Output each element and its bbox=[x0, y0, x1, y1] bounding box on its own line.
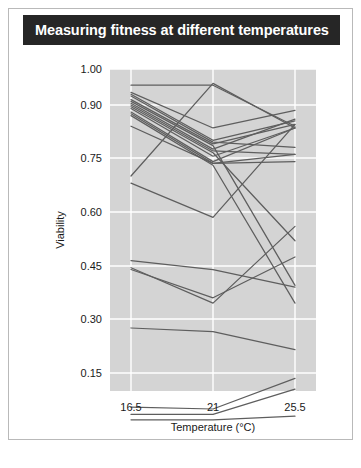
x-tick-label: 16.5 bbox=[120, 401, 141, 413]
y-tick-label: 0.60 bbox=[81, 206, 102, 218]
line-chart: 0.150.300.450.600.750.901.00 16.52125.5 … bbox=[9, 9, 354, 441]
y-tick-label: 0.30 bbox=[81, 313, 102, 325]
y-tick-label: 1.00 bbox=[81, 63, 102, 75]
x-axis-title: Temperature (°C) bbox=[171, 421, 255, 433]
y-axis-tick-labels: 0.150.300.450.600.750.901.00 bbox=[81, 63, 102, 379]
y-axis-title: Viability bbox=[54, 211, 66, 249]
y-tick-label: 0.75 bbox=[81, 152, 102, 164]
figure-panel: Measuring fitness at different temperatu… bbox=[8, 8, 353, 440]
x-tick-label: 21 bbox=[207, 401, 219, 413]
series-line bbox=[131, 416, 295, 420]
y-tick-label: 0.15 bbox=[81, 367, 102, 379]
y-tick-label: 0.90 bbox=[81, 99, 102, 111]
y-tick-label: 0.45 bbox=[81, 260, 102, 272]
x-tick-label: 25.5 bbox=[284, 401, 305, 413]
plot-container: 0.150.300.450.600.750.901.00 16.52125.5 … bbox=[9, 9, 354, 441]
